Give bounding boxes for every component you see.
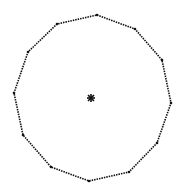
vertex-dot (96, 14, 99, 17)
vertex-dot (22, 134, 25, 137)
diagram-canvas (0, 0, 184, 196)
vertex-dot (156, 142, 159, 145)
vertex-dot (27, 51, 30, 54)
vertex-dot (50, 166, 53, 169)
vertex-dot (128, 171, 131, 174)
vertex-dot (161, 59, 164, 62)
vertex-dot (88, 180, 91, 183)
vertex-dot (134, 28, 137, 31)
vertex-dot (170, 102, 173, 105)
vertex-dot (13, 92, 16, 95)
vertex-dot (56, 23, 59, 26)
center-star-icon (87, 94, 95, 102)
